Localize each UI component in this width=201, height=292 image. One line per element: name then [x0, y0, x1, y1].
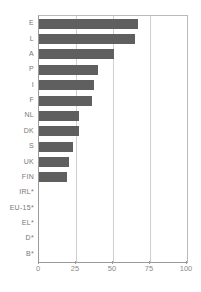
- category-label-E: E: [0, 19, 34, 26]
- category-label-L: L: [0, 35, 34, 42]
- bar: [39, 172, 67, 182]
- category-label-D: D*: [0, 234, 34, 241]
- bar-rows: [39, 16, 187, 262]
- bar-row: [39, 170, 187, 185]
- x-tick-label-50: 50: [108, 265, 116, 273]
- category-label-S: S: [0, 142, 34, 149]
- bar: [39, 49, 114, 59]
- x-tickmark-50: [112, 261, 113, 264]
- x-tickmark-75: [149, 261, 150, 264]
- bar-row: [39, 231, 187, 246]
- category-label-B: B*: [0, 250, 34, 257]
- bar: [39, 80, 94, 90]
- category-label-NL: NL: [0, 111, 34, 118]
- category-label-EU-15: EU-15*: [0, 204, 34, 211]
- bar-row: [39, 185, 187, 200]
- category-axis-labels: ELAPIFNLDKSUKFINIRL*EU-15*EL*D*B*: [0, 15, 34, 261]
- bar-row: [39, 216, 187, 231]
- x-tickmark-100: [186, 261, 187, 264]
- bar-chart: ELAPIFNLDKSUKFINIRL*EU-15*EL*D*B* 025507…: [0, 0, 201, 292]
- bar-row: [39, 139, 187, 154]
- category-label-UK: UK: [0, 158, 34, 165]
- bar-row: [39, 16, 187, 31]
- category-label-P: P: [0, 65, 34, 72]
- value-axis-labels: 0255075100: [38, 265, 187, 279]
- plot-area: [38, 15, 188, 263]
- bar-row: [39, 93, 187, 108]
- bar-row: [39, 154, 187, 169]
- category-label-A: A: [0, 50, 34, 57]
- x-tick-label-100: 100: [180, 265, 193, 273]
- bar: [39, 142, 73, 152]
- category-label-F: F: [0, 96, 34, 103]
- bar: [39, 96, 92, 106]
- bar-row: [39, 201, 187, 216]
- bar-row: [39, 47, 187, 62]
- bar: [39, 111, 79, 121]
- x-tickmark-25: [75, 261, 76, 264]
- x-tick-label-25: 25: [71, 265, 79, 273]
- category-label-IRL: IRL*: [0, 188, 34, 195]
- bar: [39, 65, 98, 75]
- x-tick-label-0: 0: [36, 265, 40, 273]
- bar-row: [39, 124, 187, 139]
- category-label-FIN: FIN: [0, 173, 34, 180]
- bar-row: [39, 31, 187, 46]
- bar: [39, 19, 138, 29]
- category-label-DK: DK: [0, 127, 34, 134]
- x-tick-label-75: 75: [145, 265, 153, 273]
- bar-row: [39, 108, 187, 123]
- category-label-EL: EL*: [0, 219, 34, 226]
- bar: [39, 126, 79, 136]
- bar: [39, 34, 135, 44]
- bar-row: [39, 62, 187, 77]
- category-label-I: I: [0, 81, 34, 88]
- bar: [39, 157, 69, 167]
- bar-row: [39, 247, 187, 262]
- bar-row: [39, 78, 187, 93]
- x-tickmark-0: [38, 261, 39, 264]
